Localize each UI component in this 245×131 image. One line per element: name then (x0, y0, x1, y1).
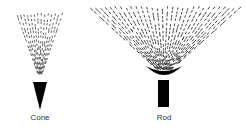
rod-label: Rod (157, 113, 172, 122)
cone-emitter-icon (33, 82, 47, 110)
rod-spray (90, 6, 241, 70)
rod-emitter-icon (158, 80, 169, 107)
cone-label: Cone (30, 113, 49, 122)
diagram-canvas (0, 0, 245, 131)
cone-spray (17, 13, 63, 75)
